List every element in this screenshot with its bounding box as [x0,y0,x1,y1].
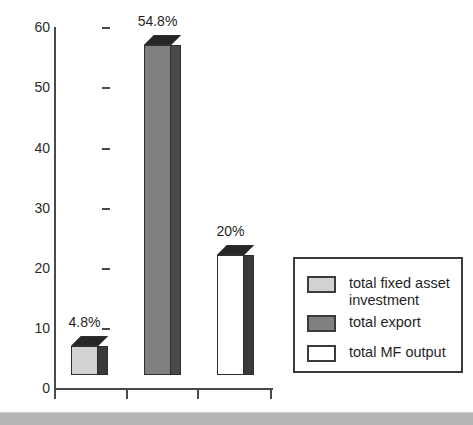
bar-total-fixed-asset-investment: 4.8% [71,346,98,375]
bar-value-label-2: 54.8% [138,13,178,29]
y-tick-label-30: 30 [34,199,50,217]
bar-total-export: 54.8% [144,45,171,375]
bar-value-label-3: 20% [216,223,244,239]
bar-front-face-3 [217,255,244,375]
y-tick-label-10: 10 [34,319,50,337]
bar-top-face-1 [71,336,108,346]
bar-top-face-2 [144,35,181,45]
legend-swatch-3 [307,345,336,362]
x-tick-0 [54,390,56,399]
legend-swatch-2 [307,315,336,332]
y-tick-label-50: 50 [34,78,50,96]
bar-top-face-3 [217,245,254,255]
y-tick-label-60: 60 [34,18,50,36]
legend-label-3: total MF output [349,344,446,361]
chart-legend: total fixed asset investment total expor… [293,257,463,373]
bar-total-mf-output: 20% [217,255,244,375]
bar-front-face-2 [144,45,171,375]
y-axis-line [54,27,56,390]
y-tick-label-40: 40 [34,139,50,157]
y-tick-label-20: 20 [34,259,50,277]
chart-screenshot: 60 50 40 30 20 10 0 [0,0,473,425]
x-axis-line [54,388,273,390]
plot-area: 60 50 40 30 20 10 0 [0,0,300,412]
bar-value-label-1: 4.8% [69,314,101,330]
bar-side-face-3 [244,255,254,375]
legend-label-1: total fixed asset investment [349,275,450,309]
x-tick-3 [270,390,272,399]
legend-item-total-export: total export [307,314,421,332]
y-tick-label-0: 0 [42,379,50,397]
x-tick-2 [197,390,199,399]
bar-front-face-1 [71,346,98,375]
bar-side-face-2 [171,45,181,375]
legend-swatch-1 [307,276,336,293]
legend-item-total-mf-output: total MF output [307,344,446,362]
legend-label-2: total export [349,314,421,331]
bar-side-face-1 [98,346,108,375]
bottom-gray-band [0,412,473,425]
legend-item-total-fixed-asset-investment: total fixed asset investment [307,275,450,309]
x-tick-1 [126,390,128,399]
